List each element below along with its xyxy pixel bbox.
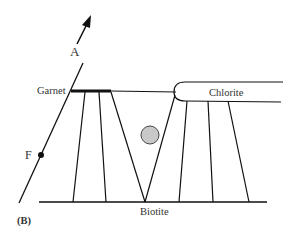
label-biotite: Biotite	[140, 206, 169, 217]
label-garnet: Garnet	[37, 85, 66, 96]
biotite-chlorite-tie	[145, 95, 175, 202]
phase-diagram: A F Garnet Chlorite Biotite (B)	[0, 0, 307, 236]
panel-label: (B)	[17, 215, 32, 227]
label-a: A	[70, 44, 80, 59]
label-f: F	[25, 148, 32, 162]
chlorite-biotite-tielines	[179, 101, 249, 202]
point-f	[38, 152, 44, 158]
label-chlorite: Chlorite	[209, 87, 244, 98]
garnet-chlorite-tie	[111, 91, 176, 92]
bulk-composition-circle	[141, 126, 159, 144]
garnet-biotite-tielines	[73, 92, 145, 202]
composition-line	[19, 63, 83, 203]
arrow-a	[77, 15, 91, 44]
